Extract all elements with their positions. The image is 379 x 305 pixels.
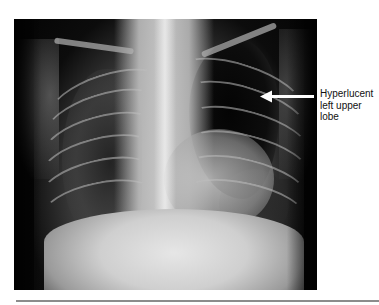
annotation-line-3: lobe [320,111,379,123]
arrow-left-icon [259,90,315,103]
annotation-label: Hyperlucent left upper lobe [320,88,379,123]
annotation-line-1: Hyperlucent [320,88,379,100]
horizontal-divider [16,300,379,302]
chest-xray-image [14,19,317,290]
image-vignette [14,19,317,290]
annotation-line-2: left upper [320,100,379,112]
